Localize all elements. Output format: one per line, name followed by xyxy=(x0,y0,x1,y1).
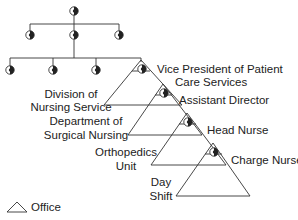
label-unit-line2: Unit xyxy=(86,160,166,173)
label-charge-nurse: Charge Nurse xyxy=(231,154,298,167)
label-assistant-director: Assistant Director xyxy=(179,94,269,107)
label-division-line1: Division of xyxy=(31,88,111,101)
label-vp-line2: Care Services xyxy=(175,76,247,89)
label-head-nurse: Head Nurse xyxy=(207,124,268,137)
label-vp-line1: Vice President of Patient xyxy=(157,63,283,76)
label-division-line2: Nursing Service xyxy=(21,101,121,114)
label-shift-line1: Day xyxy=(141,176,181,189)
label-department-line2: Surgical Nursing xyxy=(36,129,136,142)
label-shift-line2: Shift xyxy=(141,190,181,203)
triangle-icon xyxy=(7,202,27,212)
legend-office-label: Office xyxy=(31,201,61,214)
label-unit-line1: Orthopedics xyxy=(86,146,166,159)
label-department-line1: Department of xyxy=(36,115,136,128)
